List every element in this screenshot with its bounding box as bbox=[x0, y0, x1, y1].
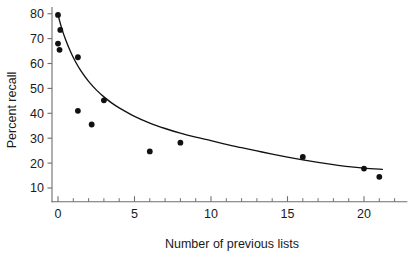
data-point bbox=[57, 27, 63, 33]
y-tick-label: 40 bbox=[30, 107, 44, 121]
data-point bbox=[57, 47, 63, 53]
data-point bbox=[300, 154, 306, 160]
y-tick-label: 50 bbox=[30, 82, 44, 96]
scatter-plot: 1020304050607080 05101520 Number of prev… bbox=[0, 0, 420, 257]
y-tick-label: 10 bbox=[30, 181, 44, 195]
chart-figure: 1020304050607080 05101520 Number of prev… bbox=[0, 0, 420, 257]
y-axis-title: Percent recall bbox=[5, 72, 19, 148]
x-tick-label: 10 bbox=[204, 207, 218, 221]
data-point bbox=[101, 97, 107, 103]
y-tick-label: 80 bbox=[30, 7, 44, 21]
data-point bbox=[75, 108, 81, 114]
data-point bbox=[55, 41, 61, 47]
y-tick-label: 20 bbox=[30, 157, 44, 171]
data-point bbox=[376, 174, 382, 180]
x-tick-label: 20 bbox=[357, 207, 371, 221]
x-tick-label: 0 bbox=[55, 207, 62, 221]
data-point bbox=[147, 149, 153, 155]
data-point bbox=[361, 166, 367, 172]
data-point bbox=[75, 54, 81, 60]
x-axis-title: Number of previous lists bbox=[165, 237, 299, 251]
y-tick-label: 70 bbox=[30, 32, 44, 46]
data-point bbox=[178, 140, 184, 146]
x-tick-label: 5 bbox=[131, 207, 138, 221]
data-point bbox=[55, 12, 61, 18]
x-tick-label: 15 bbox=[281, 207, 295, 221]
y-tick-label: 30 bbox=[30, 132, 44, 146]
data-point bbox=[89, 122, 95, 128]
y-tick-label: 60 bbox=[30, 57, 44, 71]
